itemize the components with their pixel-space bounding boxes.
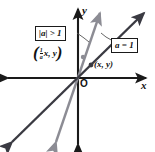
- callout-abs-a-greater-than-1: |a| > 1: [35, 26, 66, 41]
- fraction-one-over-a: 1 a: [40, 47, 43, 60]
- figure-canvas: |a| > 1 a = 1 ( 1 a x, y ) (x, y) O x y: [0, 0, 155, 152]
- point-label-transformed: ( 1 a x, y ): [33, 46, 62, 60]
- callout-a-equals-1: a = 1: [111, 38, 138, 53]
- x-axis-label: x: [141, 80, 147, 91]
- point-marker-original: [89, 63, 94, 68]
- paren-close: ): [57, 46, 63, 60]
- point-label-original: (x, y): [94, 60, 113, 69]
- fraction-denominator: a: [40, 53, 43, 60]
- paren-open: (: [33, 46, 39, 60]
- callout-a-equals-1-text: a = 1: [115, 40, 134, 50]
- y-axis-label: y: [82, 5, 87, 16]
- coordinate-plane-graphic: [0, 0, 155, 152]
- origin-label: O: [80, 79, 88, 89]
- point-label-transformed-tail: x, y: [44, 49, 57, 58]
- point-marker-transformed: [81, 55, 85, 59]
- callout-abs-a-text: |a| > 1: [39, 28, 62, 38]
